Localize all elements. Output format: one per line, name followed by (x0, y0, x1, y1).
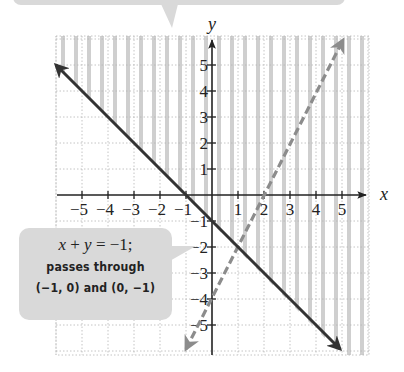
eq-var-x: x (58, 235, 66, 254)
shade-stripe (360, 36, 364, 356)
x-axis-label: x (379, 184, 388, 204)
shade-stripe (217, 36, 221, 356)
eq-rest: = −1; (92, 235, 133, 254)
equation-callout: x + y = −1; passes through (−1, 0) and (… (19, 228, 172, 320)
callout-line-3: (−1, 0) and (0, −1) (28, 277, 163, 298)
eq-plus: + (66, 235, 84, 254)
y-tick-label: 1 (200, 160, 209, 179)
shade-stripe (243, 36, 247, 356)
top-callout-pointer (161, 4, 178, 28)
shade-stripe (269, 36, 273, 356)
shade-stripe (308, 36, 312, 356)
y-tick-label: −3 (190, 264, 208, 283)
callout-line-2: passes through (28, 256, 163, 277)
x-tick-label: 3 (286, 200, 295, 219)
x-tick-label: 1 (234, 200, 243, 219)
y-tick-label: 2 (200, 134, 209, 153)
callout-equation: x + y = −1; (19, 234, 172, 256)
shade-stripe (256, 36, 260, 356)
y-axis-label: y (206, 14, 216, 34)
y-tick-label: 4 (200, 82, 209, 101)
eq-var-y: y (84, 235, 92, 254)
shade-stripe (178, 36, 182, 356)
shade-stripe (334, 36, 338, 356)
y-tick-label: 3 (200, 108, 209, 127)
shade-stripe (321, 36, 325, 356)
x-tick-label: −4 (96, 200, 115, 219)
shade-stripe (347, 36, 351, 356)
x-tick-label: 4 (312, 200, 321, 219)
y-tick-label: 5 (200, 56, 209, 75)
x-tick-label: −3 (122, 200, 140, 219)
shade-stripe (282, 36, 286, 356)
x-tick-label: −5 (70, 200, 88, 219)
x-tick-label: 2 (260, 200, 269, 219)
y-tick-label: −4 (190, 290, 209, 309)
x-tick-label: 5 (338, 200, 347, 219)
shade-stripe (230, 36, 234, 356)
x-tick-label: −2 (148, 200, 166, 219)
